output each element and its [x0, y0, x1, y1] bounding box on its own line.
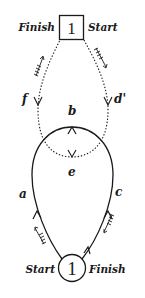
label-f: f: [21, 92, 29, 106]
feathered-arrow-lower-right-icon: [104, 214, 114, 233]
flow-loop-diagram: 1 Finish Start f d' a c b e: [0, 0, 145, 298]
bottom-node-left-label: Start: [25, 263, 55, 275]
feathered-arrow-upper-right-icon: [94, 48, 107, 68]
arrow-e-icon: [68, 150, 76, 157]
arrow-f-icon: [34, 97, 42, 105]
label-c: c: [115, 185, 123, 199]
arrow-b-icon: [68, 127, 76, 134]
top-node-left-label: Finish: [17, 21, 55, 33]
top-node-number: 1: [67, 19, 76, 38]
top-node: 1 Finish Start: [17, 16, 117, 40]
dotted-path: [38, 40, 108, 157]
arrow-d-icon: [104, 97, 112, 105]
feathered-arrow-upper-left-icon: [34, 56, 44, 76]
top-node-right-label: Start: [88, 21, 118, 33]
label-e: e: [68, 165, 76, 179]
bottom-node-right-label: Finish: [88, 263, 126, 275]
bottom-node-number: 1: [67, 258, 77, 279]
label-a: a: [19, 187, 27, 201]
bottom-node: 1 Start Finish: [25, 255, 125, 282]
label-b: b: [68, 104, 76, 118]
feathered-arrow-lower-left-icon: [35, 227, 46, 244]
arrow-a-icon: [33, 211, 41, 219]
label-d: d': [114, 92, 126, 106]
